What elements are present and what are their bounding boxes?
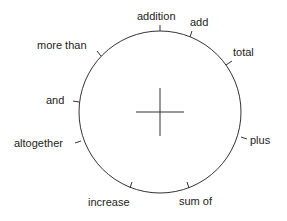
- label-more-than: more than: [37, 39, 87, 52]
- label-total: total: [233, 46, 254, 59]
- plus-icon: [136, 88, 184, 136]
- label-and: and: [46, 94, 64, 107]
- label-plus: plus: [250, 134, 270, 147]
- label-addition: addition: [137, 10, 176, 23]
- label-altogether: altogether: [14, 137, 63, 150]
- label-sum-of: sum of: [179, 195, 212, 208]
- label-add: add: [190, 16, 208, 29]
- label-increase: increase: [88, 196, 130, 209]
- word-wheel-diagram: [0, 0, 287, 221]
